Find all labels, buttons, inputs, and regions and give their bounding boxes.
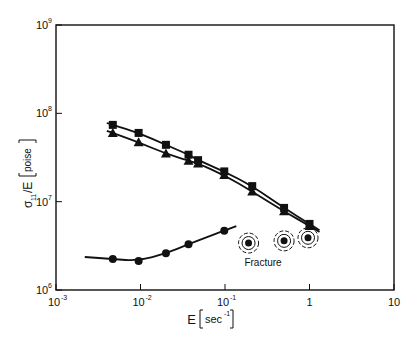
data-points	[108, 121, 318, 265]
fracture-annotation: Fracture	[244, 257, 282, 268]
x-tick-labels: 10-310-210-1110	[48, 294, 400, 308]
x-label-exp: -1	[224, 310, 230, 317]
circle-marker	[109, 255, 117, 263]
x-tick-label: 10	[217, 296, 229, 308]
circle-marker	[162, 249, 170, 257]
axis-ticks	[56, 25, 394, 290]
y-tick-exponent: 7	[48, 194, 52, 201]
fit-line-circles	[85, 226, 237, 260]
y-label-unit: poise	[22, 148, 33, 172]
y-axis-label: σ 11 /E poise	[19, 140, 37, 208]
triangle-marker	[161, 149, 171, 158]
circle-marker	[220, 227, 228, 235]
x-label-bracket-left	[200, 310, 203, 328]
x-axis-label: E sec -1	[187, 310, 233, 328]
square-marker	[135, 129, 143, 137]
y-label-rest: /E	[21, 182, 35, 193]
y-label-bracket-left	[19, 173, 36, 176]
x-tick-label: 1	[306, 296, 312, 308]
square-marker	[109, 121, 117, 129]
plot-frame	[56, 25, 394, 290]
y-tick-label: 10	[36, 19, 48, 31]
chart-container: 106107108109 10-310-210-1110 Fracture E …	[0, 0, 419, 341]
x-tick-label: 10	[133, 296, 145, 308]
circle-marker	[135, 257, 143, 265]
fracture-marker	[305, 234, 312, 241]
x-label-main: E	[187, 312, 196, 327]
y-label-bracket-right	[19, 140, 36, 143]
y-tick-exponent: 6	[48, 282, 52, 289]
x-tick-exponent: -3	[61, 294, 67, 301]
x-tick-label: 10	[48, 296, 60, 308]
circle-marker	[185, 240, 193, 248]
square-marker	[162, 141, 170, 149]
fracture-marker	[245, 240, 252, 247]
fracture-marker	[281, 237, 288, 244]
y-tick-label: 10	[36, 284, 48, 296]
x-tick-label: 10	[388, 296, 400, 308]
x-label-unit: sec	[205, 313, 223, 325]
y-tick-exponent: 9	[48, 17, 52, 24]
x-tick-exponent: -2	[146, 294, 152, 301]
y-label-sub: 11	[30, 194, 37, 201]
x-label-bracket-right	[230, 310, 233, 328]
y-tick-label: 10	[36, 196, 48, 208]
chart-svg: 106107108109 10-310-210-1110 Fracture E …	[0, 0, 419, 341]
x-tick-exponent: -1	[230, 294, 236, 301]
y-tick-label: 10	[36, 107, 48, 119]
y-tick-exponent: 8	[48, 105, 52, 112]
y-tick-labels: 106107108109	[36, 17, 52, 296]
